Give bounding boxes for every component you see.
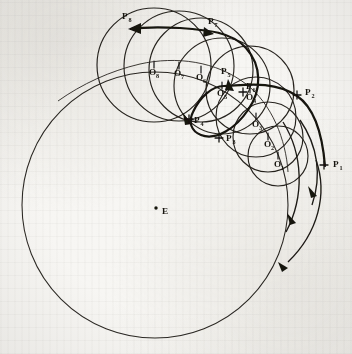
label-O8: O 8 bbox=[149, 67, 159, 79]
label-O5-sub: 5 bbox=[224, 93, 227, 100]
label-P5: P 5 bbox=[221, 66, 231, 78]
label-O2-sub: 2 bbox=[271, 144, 274, 151]
label-P5-sub: 5 bbox=[228, 71, 231, 78]
label-P8-text: P bbox=[122, 11, 128, 21]
label-P5-text: P bbox=[221, 66, 227, 76]
label-O2: O 2 bbox=[264, 139, 274, 151]
marker-P1 bbox=[320, 161, 328, 169]
label-P8-sub: 8 bbox=[129, 16, 132, 23]
label-E-text: E bbox=[162, 206, 168, 216]
label-O4: O 4 bbox=[246, 92, 256, 104]
label-O7: O 7 bbox=[174, 68, 184, 80]
label-P4-sub: 4 bbox=[201, 120, 204, 127]
label-P4-text: P bbox=[194, 115, 200, 125]
label-O6-sub: 6 bbox=[203, 77, 206, 84]
label-O6: O 6 bbox=[196, 72, 206, 84]
label-P7-sub: 7 bbox=[215, 21, 218, 28]
base-circle bbox=[22, 72, 288, 338]
figure-root: E P 1 P 2 P 3 P 4 P 5 bbox=[0, 0, 352, 354]
label-P2-text: P bbox=[305, 87, 311, 97]
label-O8-sub: 8 bbox=[156, 72, 159, 79]
label-P7-text: P bbox=[208, 16, 214, 26]
label-E: E bbox=[162, 206, 168, 216]
label-P2-sub: 2 bbox=[312, 92, 315, 99]
label-P2: P 2 bbox=[305, 87, 315, 99]
outer-spiral bbox=[283, 120, 321, 262]
label-P3-text: P bbox=[226, 133, 232, 143]
centre-point-E bbox=[154, 206, 157, 209]
label-P6-text: P bbox=[246, 81, 252, 91]
label-P4: P 4 bbox=[194, 115, 204, 127]
label-P3-sub: 3 bbox=[233, 138, 236, 145]
label-O1-sub: 1 bbox=[281, 164, 284, 171]
label-P1-sub: 1 bbox=[340, 164, 343, 171]
geometric-diagram: E P 1 P 2 P 3 P 4 P 5 bbox=[0, 0, 352, 354]
label-P3: P 3 bbox=[226, 133, 236, 145]
label-O1: O 1 bbox=[274, 159, 284, 171]
label-P1-text: P bbox=[333, 159, 339, 169]
centre-ticks bbox=[154, 61, 278, 159]
label-O3: O 3 bbox=[252, 119, 262, 131]
label-P1: P 1 bbox=[333, 159, 343, 171]
label-O7-sub: 7 bbox=[181, 73, 184, 80]
label-P7: P 7 bbox=[208, 16, 218, 28]
label-O3-sub: 3 bbox=[259, 124, 262, 131]
label-O4-sub: 4 bbox=[253, 97, 256, 104]
labels-layer: E P 1 P 2 P 3 P 4 P 5 bbox=[122, 11, 343, 216]
